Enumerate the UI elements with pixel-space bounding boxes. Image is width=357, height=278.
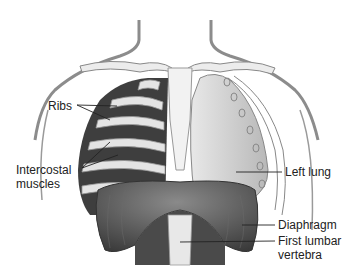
intercostal-label-line1: Intercostal bbox=[16, 163, 71, 177]
lumbar-label-line1: First lumbar bbox=[278, 234, 341, 248]
sternum bbox=[168, 68, 192, 170]
lumbar-label-line2: vertebra bbox=[278, 248, 341, 262]
diaphragm-label: Diaphragm bbox=[278, 218, 337, 232]
ribs-label: Ribs bbox=[48, 99, 72, 113]
intercostal-muscles-label: Intercostal muscles bbox=[16, 163, 71, 191]
first-lumbar-vertebra-label: First lumbar vertebra bbox=[278, 234, 341, 262]
left-lung-label: Left lung bbox=[285, 165, 331, 179]
diaphragm bbox=[96, 181, 258, 265]
intercostal-label-line2: muscles bbox=[16, 177, 71, 191]
